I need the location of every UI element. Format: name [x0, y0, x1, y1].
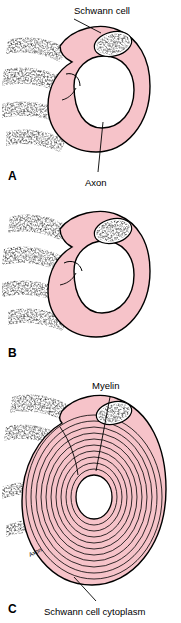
label-schwann-cell: Schwann cell	[74, 5, 130, 16]
panel-letter-a: A	[8, 169, 17, 183]
axon-lumen-c	[76, 475, 112, 519]
label-schwann-cell-cytoplasm: Schwann cell cytoplasm	[44, 606, 145, 617]
panel-a: Schwann cell Axon A	[0, 0, 181, 205]
panel-c: Axon Myelin Schwann cell cytoplasm C	[0, 375, 181, 623]
label-axon: Axon	[85, 177, 107, 188]
panel-letter-c: C	[8, 602, 17, 616]
figure-schwann-cell-myelination: Schwann cell Axon A	[0, 0, 181, 623]
label-myelin: Myelin	[92, 380, 119, 391]
panel-b: B	[0, 205, 181, 375]
panel-letter-b: B	[8, 346, 17, 360]
